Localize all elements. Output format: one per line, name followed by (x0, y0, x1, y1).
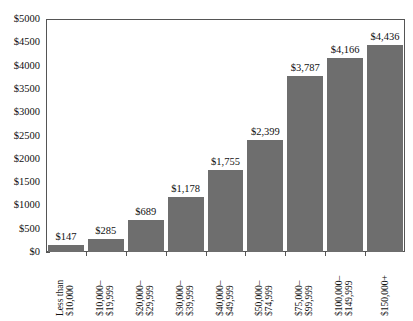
x-axis-tick-label-line2: $19,999 (105, 256, 116, 316)
bar (88, 239, 124, 252)
y-axis-tick-label: $1000 (14, 200, 40, 211)
x-axis-tick-label: $20,000–$29,999 (135, 256, 147, 316)
x-axis-tick-label: Less than$10,000 (55, 256, 67, 316)
x-axis-tick-label-line1: Less than (55, 256, 66, 316)
y-axis-tick-label: $2500 (14, 131, 40, 142)
x-axis-tick-label-line2: $74,999 (264, 256, 275, 316)
bar-chart: $0$500$1000$1500$2000$2500$3000$3500$400… (0, 0, 413, 321)
y-axis-tick-label: $3500 (14, 84, 40, 95)
bar (247, 140, 283, 252)
x-axis-tick-label-line1: $150,000+ (380, 256, 391, 316)
bar-value-label: $4,436 (355, 32, 413, 43)
y-axis-tick-label: $5000 (14, 14, 40, 25)
x-axis-tick-label-line2: $29,999 (145, 256, 156, 316)
bar (128, 220, 164, 252)
x-axis-tick-label-line1: $10,000– (95, 256, 106, 316)
x-axis-tick-label-line2: $149,999 (344, 256, 355, 316)
y-axis-tick-label: $1500 (14, 177, 40, 188)
bar (168, 197, 204, 252)
y-axis-tick-label: $4000 (14, 61, 40, 72)
x-axis-tick-mark (285, 252, 286, 256)
x-axis-tick-mark (325, 252, 326, 256)
x-axis-tick-mark (206, 252, 207, 256)
x-axis-tick-label: $150,000+ (380, 256, 392, 316)
bar (327, 58, 363, 252)
x-axis-tick-mark (365, 252, 366, 256)
y-axis-tick-label: $3000 (14, 107, 40, 118)
x-axis-tick-label-line1: $40,000– (215, 256, 226, 316)
x-axis-tick-label: $30,000–$39,999 (175, 256, 187, 316)
x-axis-tick-mark (126, 252, 127, 256)
y-axis-tick-label: $4500 (14, 37, 40, 48)
x-axis-tick-mark (86, 252, 87, 256)
x-axis-tick-mark (166, 252, 167, 256)
x-axis-tick-label: $40,000–$49,999 (215, 256, 227, 316)
x-axis-tick-label-line2: $10,000 (65, 256, 76, 316)
bar (208, 170, 244, 252)
x-axis-tick-label-line2: $49,999 (225, 256, 236, 316)
x-axis-tick-label: $75,000–$99,999 (294, 256, 306, 316)
y-axis-tick-label: $0 (30, 247, 41, 258)
x-axis-tick-label-line2: $99,999 (304, 256, 315, 316)
x-axis-tick-mark (245, 252, 246, 256)
x-axis-tick-label-line1: $30,000– (175, 256, 186, 316)
bar (287, 76, 323, 252)
x-axis-tick-label: $100,000–$149,999 (334, 256, 346, 316)
x-axis-tick-label-line2: $39,999 (185, 256, 196, 316)
x-axis-tick-label: $50,000–$74,999 (254, 256, 266, 316)
y-axis-tick-mark (46, 252, 50, 253)
bar (367, 45, 403, 252)
y-axis-tick-label: $2000 (14, 154, 40, 165)
bar (48, 245, 84, 252)
x-axis-tick-label: $10,000–$19,999 (95, 256, 107, 316)
x-axis-tick-label-line1: $20,000– (135, 256, 146, 316)
